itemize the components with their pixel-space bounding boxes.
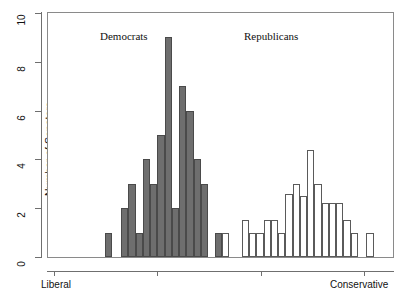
x-axis-label-liberal: Liberal xyxy=(41,279,71,290)
bar-republicans xyxy=(343,220,350,257)
bar-republicans xyxy=(222,233,229,257)
y-axis-tick xyxy=(35,111,41,112)
group-label-democrats: Democrats xyxy=(100,30,148,42)
bar-democrats xyxy=(157,135,164,257)
y-axis-line xyxy=(41,12,42,258)
x-axis-tick xyxy=(157,271,158,276)
y-axis-tick xyxy=(35,208,41,209)
bar-republicans xyxy=(300,196,307,257)
bar-republicans xyxy=(322,203,329,257)
y-axis: Number of Senators 0246810 xyxy=(0,0,47,298)
bar-republicans xyxy=(366,233,373,257)
y-axis-tick-label: 6 xyxy=(16,111,27,125)
y-axis-tick-label: 0 xyxy=(16,257,27,271)
bar-republicans xyxy=(271,220,278,257)
bar-republicans xyxy=(249,233,256,257)
plot-frame: Democrats Republicans xyxy=(47,12,394,258)
bar-democrats xyxy=(194,159,201,257)
bar-democrats xyxy=(201,184,208,257)
y-axis-tick-label: 10 xyxy=(16,13,27,27)
bar-republicans xyxy=(264,220,271,257)
bar-republicans xyxy=(278,233,285,257)
y-axis-tick xyxy=(35,257,41,258)
bar-democrats xyxy=(105,233,112,257)
plot-area xyxy=(48,13,393,257)
y-axis-tick xyxy=(35,62,41,63)
x-axis-tick xyxy=(364,271,365,276)
bar-republicans xyxy=(242,220,249,257)
bar-democrats xyxy=(121,208,128,257)
bar-republicans xyxy=(329,203,336,257)
x-axis-line xyxy=(47,271,394,272)
bar-republicans xyxy=(351,233,358,257)
bar-democrats xyxy=(143,159,150,257)
y-axis-tick xyxy=(35,159,41,160)
bar-republicans xyxy=(285,194,292,257)
x-axis-label-conservative: Conservative xyxy=(330,279,388,290)
y-axis-tick-label: 8 xyxy=(16,62,27,76)
bar-republicans xyxy=(293,184,300,257)
bar-democrats xyxy=(150,184,157,257)
bar-republicans xyxy=(336,203,343,257)
histogram-chart: Number of Senators 0246810 Democrats Rep… xyxy=(0,0,409,298)
y-axis-tick-label: 2 xyxy=(16,208,27,222)
y-axis-tick-label: 4 xyxy=(16,159,27,173)
bar-republicans xyxy=(215,233,222,257)
bar-democrats xyxy=(172,208,179,257)
bar-republicans xyxy=(314,184,321,257)
bar-democrats xyxy=(186,111,193,257)
x-axis-tick xyxy=(54,271,55,276)
bar-democrats xyxy=(136,233,143,257)
y-axis-tick xyxy=(35,13,41,14)
x-axis-tick xyxy=(261,271,262,276)
group-label-republicans: Republicans xyxy=(244,30,298,42)
bar-democrats xyxy=(179,86,186,257)
bar-democrats xyxy=(165,37,172,257)
bar-republicans xyxy=(256,233,263,257)
bar-democrats xyxy=(128,184,135,257)
bar-republicans xyxy=(307,150,314,257)
